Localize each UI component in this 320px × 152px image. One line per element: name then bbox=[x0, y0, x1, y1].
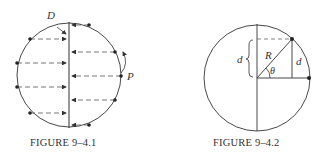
point-on-axis bbox=[307, 76, 311, 80]
label-d-left: d bbox=[237, 53, 243, 65]
figure-9-4-1: D P bbox=[15, 9, 134, 128]
curved-arrow-d bbox=[57, 27, 66, 34]
right-dashed-arrows bbox=[72, 25, 121, 125]
caption-figure-9-4-1: FIGURE 9–4.1 bbox=[30, 137, 97, 148]
brace bbox=[246, 40, 253, 77]
curved-arrow-p bbox=[121, 52, 126, 73]
figure-9-4-2: d R θ d bbox=[204, 24, 311, 131]
caption-figure-9-4-2: FIGURE 9–4.2 bbox=[213, 137, 280, 148]
label-p: P bbox=[126, 70, 134, 82]
label-r: R bbox=[264, 49, 272, 61]
diagram-canvas: D P d R θ d bbox=[0, 0, 320, 152]
label-d: D bbox=[46, 9, 55, 21]
label-d-right: d bbox=[296, 55, 302, 67]
point-on-circle bbox=[290, 37, 294, 41]
label-theta: θ bbox=[270, 65, 275, 76]
